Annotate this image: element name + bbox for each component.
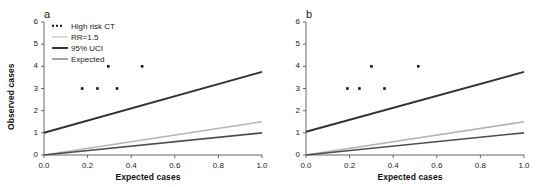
legend-item-high-risk-ct: High risk CT (52, 21, 115, 31)
panel-a-y-tick-label: 0 (22, 150, 38, 159)
panel-a-svg (0, 0, 268, 187)
panel-b-x-tick-label: 1.0 (510, 161, 537, 170)
panel-a-y-tick-label: 2 (22, 106, 38, 115)
panel-a-x-tick-label: 0.6 (161, 161, 189, 170)
panel-b-y-tick-label: 6 (284, 17, 300, 26)
panel-b-x-tick-label: 0.6 (423, 161, 451, 170)
panel-b-data-point (383, 87, 386, 90)
panel-a-line-expected (44, 133, 262, 155)
panel-b-plot-area (268, 0, 537, 187)
panel-a-x-tick-label: 0.8 (204, 161, 232, 170)
panel-a-data-point (96, 87, 99, 90)
legend-label: RR=1.5 (71, 33, 98, 42)
legend-item-rr-1-5: RR=1.5 (52, 32, 115, 42)
panel-b-x-tick-label: 0.4 (379, 161, 407, 170)
legend-label: Expected (71, 55, 104, 64)
panel-a-line-95-uci (44, 72, 262, 133)
legend-dot (56, 25, 58, 27)
panel-b-data-point (370, 65, 373, 68)
panel-b-y-tick-label: 4 (284, 61, 300, 70)
panel-b-data-point (346, 87, 349, 90)
legend-label: 95% UCI (71, 44, 103, 53)
legend-line-icon (52, 55, 68, 64)
panel-b-x-axis-title: Expected cases (298, 172, 522, 182)
panel-a-x-tick-label: 0.2 (74, 161, 102, 170)
panel-a-data-point (81, 87, 84, 90)
panel-a-line-rr-1-5 (44, 122, 262, 155)
panel-a-y-tick-label: 5 (22, 39, 38, 48)
panel-b-svg (268, 0, 537, 187)
panel-b-x-tick-label: 0.8 (466, 161, 494, 170)
legend-line-icon (52, 33, 68, 42)
legend-item-expected: Expected (52, 54, 115, 64)
legend-label: High risk CT (71, 22, 115, 31)
panel-a-y-tick-label: 1 (22, 128, 38, 137)
panel-a-data-point (107, 65, 110, 68)
legend-item-95-uci: 95% UCI (52, 43, 115, 53)
panel-a-data-point (116, 87, 119, 90)
panel-b-y-tick-label: 0 (284, 150, 300, 159)
panel-b-y-tick-label: 5 (284, 39, 300, 48)
panel-a-legend: High risk CTRR=1.595% UCIExpected (52, 21, 115, 64)
legend-swatch (52, 37, 68, 38)
panel-b-line-95-uci (306, 72, 524, 132)
panel-b-data-point (417, 65, 420, 68)
panel-b-x-tick-label: 0.2 (336, 161, 364, 170)
panel-a-y-tick-label: 4 (22, 61, 38, 70)
panel-a-data-point (141, 65, 144, 68)
legend-swatch (52, 59, 68, 60)
panel-a-plot-area (0, 0, 268, 187)
panel-b-x-tick-label: 0.0 (292, 161, 320, 170)
panel-a-x-tick-label: 0.4 (117, 161, 145, 170)
figure-two-panel-chart: a Observed cases High risk CTRR=1.595% U… (0, 0, 537, 187)
panel-a: a Observed cases High risk CTRR=1.595% U… (0, 0, 268, 187)
panel-b-data-point (358, 87, 361, 90)
legend-dots-icon (52, 22, 68, 31)
panel-a-y-tick-label: 6 (22, 17, 38, 26)
panel-a-y-tick-label: 3 (22, 84, 38, 93)
legend-dot (60, 25, 62, 27)
legend-swatch (52, 47, 68, 49)
panel-b-line-rr-1-5 (306, 122, 524, 155)
panel-b-line-expected (306, 133, 524, 155)
legend-line-icon (52, 44, 68, 53)
legend-dot (52, 25, 54, 27)
panel-b: b Expected cases 01234560.00.20.40.60.81… (268, 0, 537, 187)
panel-a-x-tick-label: 0.0 (30, 161, 58, 170)
panel-b-y-tick-label: 2 (284, 106, 300, 115)
panel-b-y-tick-label: 3 (284, 84, 300, 93)
panel-b-y-tick-label: 1 (284, 128, 300, 137)
panel-a-x-axis-title: Expected cases (36, 172, 260, 182)
